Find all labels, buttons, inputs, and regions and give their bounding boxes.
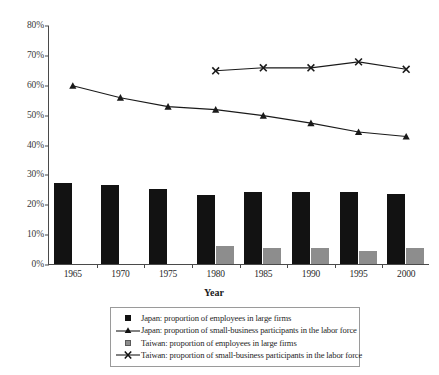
y-axis-tick-label: 50% — [27, 111, 44, 121]
x-axis-tick-label: 1970 — [111, 270, 129, 280]
y-axis-tick — [45, 235, 49, 236]
bar-japan-1975 — [149, 189, 167, 264]
y-axis-tick — [45, 205, 49, 206]
x-axis-tick-label: 1995 — [349, 270, 367, 280]
line-path — [216, 62, 407, 71]
data-point-marker-triangle — [117, 94, 124, 101]
chart-container: 0%10%20%30%40%50%60%70%80% 1965197019751… — [0, 0, 439, 375]
y-axis-tick — [45, 55, 49, 56]
x-axis-tick-label: 1990 — [302, 270, 320, 280]
bar-japan-2000 — [387, 194, 405, 264]
data-point-marker-x — [212, 67, 219, 74]
y-axis-tick-label: 40% — [27, 141, 44, 151]
chart-legend: Japan: proportion of employees in large … — [110, 307, 360, 367]
bar-japan-1995 — [340, 192, 358, 264]
x-axis-tick — [287, 264, 288, 268]
y-axis-tick — [45, 175, 49, 176]
bar-taiwan-1990 — [311, 248, 329, 264]
legend-label: Taiwan: proportion of small-business par… — [141, 351, 362, 360]
data-point-marker-x — [355, 58, 362, 65]
legend-item: Taiwan: proportion of employees in large… — [115, 337, 354, 349]
legend-label: Japan: proportion of employees in large … — [141, 314, 291, 323]
y-axis-tick-label: 10% — [27, 230, 44, 240]
data-point-marker-triangle — [355, 128, 362, 135]
legend-item: Taiwan: proportion of small-business par… — [115, 349, 354, 361]
data-point-marker-triangle — [69, 82, 76, 89]
data-point-marker-triangle — [260, 112, 267, 119]
y-axis-tick — [45, 265, 49, 266]
y-axis-tick-label: 80% — [27, 21, 44, 31]
x-axis-tick — [144, 264, 145, 268]
bar-taiwan-2000 — [406, 248, 424, 264]
x-axis-tick-label: 2000 — [397, 270, 415, 280]
data-point-marker-x — [260, 64, 267, 71]
y-axis-tick — [45, 26, 49, 27]
line-path — [73, 86, 406, 137]
x-axis-title: Year — [204, 287, 224, 298]
y-axis-tick-label: 0% — [32, 260, 44, 270]
y-axis-tick — [45, 115, 49, 116]
legend-marker-black-square-icon — [115, 312, 141, 324]
bar-taiwan-1985 — [263, 248, 281, 264]
y-axis-tick-label: 30% — [27, 171, 44, 181]
x-axis-tick-label: 1965 — [64, 270, 82, 280]
x-axis-tick — [192, 264, 193, 268]
x-axis-tick — [240, 264, 241, 268]
x-axis-tick — [335, 264, 336, 268]
legend-item: Japan: proportion of small-business part… — [115, 324, 354, 336]
bar-japan-1985 — [244, 192, 262, 264]
y-axis-tick-label: 20% — [27, 201, 44, 211]
data-point-marker-x — [308, 64, 315, 71]
bar-japan-1980 — [197, 195, 215, 264]
x-axis-tick-label: 1975 — [159, 270, 177, 280]
legend-label: Japan: proportion of small-business part… — [141, 326, 357, 335]
bar-taiwan-1995 — [359, 251, 377, 264]
y-axis-tick — [45, 85, 49, 86]
data-point-marker-triangle — [164, 103, 171, 110]
data-point-marker-triangle — [307, 119, 314, 126]
x-axis-tick — [382, 264, 383, 268]
data-point-marker-x — [403, 66, 410, 73]
bar-taiwan-1980 — [216, 246, 234, 264]
data-point-marker-triangle — [403, 133, 410, 140]
legend-label: Taiwan: proportion of employees in large… — [141, 339, 297, 348]
x-axis-tick-label: 1980 — [207, 270, 225, 280]
y-axis-tick-label: 70% — [27, 51, 44, 61]
legend-marker-gray-square-icon — [115, 337, 141, 349]
x-axis-tick — [97, 264, 98, 268]
legend-item: Japan: proportion of employees in large … — [115, 312, 354, 324]
bar-japan-1990 — [292, 192, 310, 264]
data-point-marker-triangle — [212, 106, 219, 113]
bar-japan-1965 — [54, 183, 72, 264]
bar-japan-1970 — [101, 185, 119, 264]
legend-marker-x-icon — [115, 349, 141, 361]
y-axis-tick — [45, 145, 49, 146]
y-axis-tick-label: 60% — [27, 81, 44, 91]
legend-marker-triangle-icon — [115, 325, 141, 337]
plot-area: 0%10%20%30%40%50%60%70%80% 1965197019751… — [48, 26, 429, 265]
x-axis-tick-label: 1985 — [254, 270, 272, 280]
